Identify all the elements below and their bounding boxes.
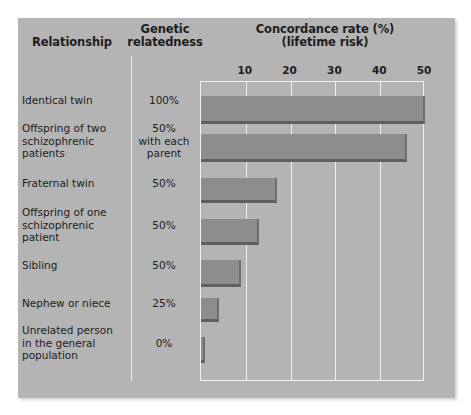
- row-label-relationship: Nephew or niece: [22, 297, 130, 310]
- row-label-relationship: Offspring of oneschizophrenicpatient: [22, 206, 130, 244]
- row-label-relationship: Unrelated personin the generalpopulation: [22, 324, 130, 362]
- x-tick-label-40: 40: [366, 64, 392, 76]
- row-value-relatedness: 50%: [133, 177, 195, 190]
- row-value-relatedness: 0%: [133, 337, 195, 350]
- row-label-line: in the general: [22, 337, 130, 350]
- row-label-line: Offspring of two: [22, 122, 130, 135]
- row-value-relatedness: 50%: [133, 219, 195, 232]
- x-tick-label-50: 50: [411, 64, 437, 76]
- row-label-relationship: Sibling: [22, 259, 130, 272]
- row-value-line: 50%: [133, 219, 195, 232]
- gridline-40: [380, 82, 381, 380]
- row-value-line: parent: [133, 147, 195, 160]
- row-label-line: Identical twin: [22, 94, 130, 107]
- bar: [201, 298, 219, 322]
- row-value-line: 50%: [133, 177, 195, 190]
- row-label-line: Fraternal twin: [22, 177, 130, 190]
- bar: [201, 96, 425, 124]
- row-value-line: with each: [133, 135, 195, 148]
- row-label-line: schizophrenic: [22, 135, 130, 148]
- x-tick-label-20: 20: [277, 64, 303, 76]
- gridline-30: [335, 82, 336, 380]
- bar: [201, 219, 259, 245]
- row-label-relationship: Fraternal twin: [22, 177, 130, 190]
- row-label-line: Offspring of one: [22, 206, 130, 219]
- row-value-line: 50%: [133, 122, 195, 135]
- row-value-relatedness: 50%with eachparent: [133, 122, 195, 160]
- column-header-genetic-relatedness: Genetic relatedness: [119, 23, 211, 49]
- bar: [201, 178, 277, 203]
- row-label-relationship: Identical twin: [22, 94, 130, 107]
- row-label-line: Sibling: [22, 259, 130, 272]
- row-label-line: population: [22, 349, 130, 362]
- row-label-relationship: Offspring of twoschizophrenicpatients: [22, 122, 130, 160]
- row-label-line: patients: [22, 147, 130, 160]
- column-divider: [131, 56, 132, 381]
- column-header-concordance: Concordance rate (%) (lifetime risk): [216, 23, 434, 49]
- x-tick-label-30: 30: [321, 64, 347, 76]
- figure-root: Relationship Genetic relatedness Concord…: [0, 0, 471, 415]
- row-label-line: Unrelated person: [22, 324, 130, 337]
- row-value-line: 50%: [133, 259, 195, 272]
- column-header-concordance-line2: (lifetime risk): [216, 36, 434, 49]
- plot-area: [200, 81, 424, 381]
- bar: [201, 260, 241, 287]
- bar: [201, 337, 205, 363]
- row-value-line: 100%: [133, 94, 195, 107]
- row-value-relatedness: 100%: [133, 94, 195, 107]
- row-value-line: 25%: [133, 297, 195, 310]
- bar: [201, 134, 407, 162]
- row-value-relatedness: 25%: [133, 297, 195, 310]
- row-value-relatedness: 50%: [133, 259, 195, 272]
- column-header-relationship: Relationship: [22, 36, 122, 49]
- column-header-genetic-line2: relatedness: [119, 36, 211, 49]
- x-tick-label-10: 10: [232, 64, 258, 76]
- gridline-20: [291, 82, 292, 380]
- row-label-line: Nephew or niece: [22, 297, 130, 310]
- row-label-line: patient: [22, 231, 130, 244]
- row-value-line: 0%: [133, 337, 195, 350]
- row-label-line: schizophrenic: [22, 219, 130, 232]
